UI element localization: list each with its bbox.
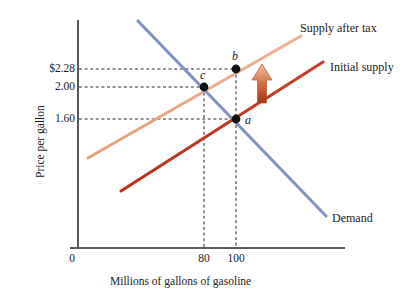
x-tick-label-80: 80 bbox=[194, 253, 214, 265]
x-tick-label-100: 100 bbox=[223, 253, 249, 265]
point-label-a: a bbox=[245, 114, 251, 126]
y-tick-label-2-28: $2.28 bbox=[15, 63, 75, 75]
x-axis-title: Millions of gallons of gasoline bbox=[110, 276, 251, 288]
series-label-initial-supply: Initial supply bbox=[330, 61, 394, 73]
point-label-c: c bbox=[200, 69, 205, 81]
y-axis-title: Price per gallon bbox=[35, 105, 47, 178]
x-tick-label-0: 0 bbox=[62, 253, 82, 265]
point-c-marker bbox=[200, 83, 209, 92]
point-a-marker bbox=[232, 115, 241, 124]
dashed-guides bbox=[79, 69, 236, 247]
point-label-b: b bbox=[232, 50, 238, 62]
point-b-marker bbox=[232, 65, 241, 74]
chart-canvas bbox=[0, 0, 413, 294]
series-label-demand: Demand bbox=[332, 212, 373, 224]
supply-demand-chart: $2.28 2.00 1.60 0 80 100 Price per gallo… bbox=[0, 0, 413, 294]
y-tick-label-2-00: 2.00 bbox=[15, 81, 75, 93]
series-label-supply-after-tax: Supply after tax bbox=[300, 22, 377, 34]
